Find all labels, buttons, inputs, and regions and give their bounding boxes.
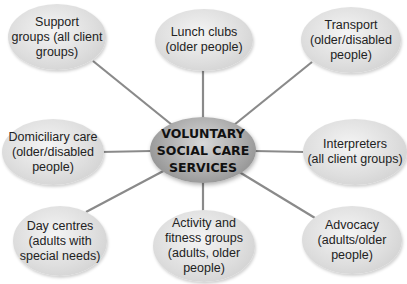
node-activity-fitness: Activity and fitness groups (adults, old… bbox=[153, 210, 255, 282]
node-lunch-clubs: Lunch clubs (older people) bbox=[155, 9, 253, 71]
center-node: VOLUNTARY SOCIAL CARE SERVICES bbox=[150, 117, 256, 183]
node-domiciliary-care: Domiciliary care (older/disabled people) bbox=[2, 119, 104, 185]
node-advocacy: Advocacy (adults/older people) bbox=[302, 206, 402, 274]
node-label: Transport (older/disabled people) bbox=[310, 18, 392, 63]
node-support-groups: Support groups (all client groups) bbox=[8, 4, 106, 70]
spider-diagram: Support groups (all client groups) Lunch… bbox=[0, 0, 407, 284]
node-transport: Transport (older/disabled people) bbox=[301, 7, 401, 73]
node-day-centres: Day centres (adults with special needs) bbox=[13, 206, 107, 276]
center-label: VOLUNTARY SOCIAL CARE SERVICES bbox=[157, 125, 249, 176]
node-label: Advocacy (adults/older people) bbox=[318, 218, 387, 263]
node-label: Day centres (adults with special needs) bbox=[20, 219, 101, 264]
node-interpreters: Interpreters (all client groups) bbox=[303, 119, 407, 185]
node-label: Domiciliary care (older/disabled people) bbox=[9, 130, 98, 175]
node-label: Interpreters (all client groups) bbox=[307, 137, 402, 167]
node-label: Support groups (all client groups) bbox=[11, 15, 102, 60]
node-label: Lunch clubs (older people) bbox=[165, 25, 242, 55]
node-label: Activity and fitness groups (adults, old… bbox=[165, 216, 243, 276]
